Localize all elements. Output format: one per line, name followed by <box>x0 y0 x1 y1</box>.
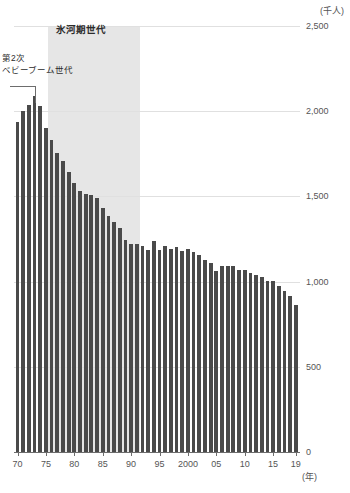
bar <box>260 277 264 453</box>
x-axis-tick-label-95: 95 <box>155 459 165 469</box>
bar <box>67 172 71 452</box>
bar <box>89 195 93 452</box>
x-axis-tick-mark-95 <box>160 452 161 456</box>
y-axis-tick-label-0: 0 <box>306 447 311 457</box>
annotation-leader-horizontal <box>10 86 35 87</box>
bar-series <box>14 26 300 452</box>
y-axis-unit-label: (千人) <box>320 4 344 17</box>
y-axis-tick-label-2500: 2,500 <box>306 21 329 31</box>
bar <box>44 128 48 452</box>
plot-area: 707580859095200005101519 <box>14 26 300 452</box>
bar <box>141 246 145 452</box>
x-axis-tick-label-15: 15 <box>268 459 278 469</box>
x-axis-tick-mark-19 <box>296 452 297 456</box>
x-axis-tick-mark-70 <box>18 452 19 456</box>
annotation-leader-vertical <box>35 86 36 103</box>
bar <box>84 194 88 452</box>
bar <box>283 291 287 452</box>
bar <box>55 153 59 452</box>
bar <box>254 275 258 452</box>
bar <box>78 191 82 452</box>
bar <box>271 281 275 452</box>
bar <box>112 222 116 452</box>
bar <box>186 249 190 452</box>
bar <box>50 140 54 452</box>
y-axis-tick-label-2000: 2,000 <box>306 106 329 116</box>
bar <box>288 296 292 452</box>
x-axis-tick-label-05: 05 <box>211 459 221 469</box>
x-axis-tick-label-75: 75 <box>41 459 51 469</box>
annotation-boom-line2: ベビーブーム世代 <box>2 64 73 76</box>
bar <box>266 281 270 452</box>
bar <box>231 266 235 452</box>
bar <box>226 266 230 452</box>
bar <box>27 105 31 452</box>
bar <box>243 270 247 452</box>
bar <box>107 216 111 452</box>
bar-chart: (千人) 707580859095200005101519 05001,0001… <box>0 0 350 493</box>
bar <box>277 286 281 452</box>
bar <box>249 273 253 452</box>
bar <box>129 244 133 452</box>
bar <box>118 228 122 452</box>
bar <box>214 271 218 452</box>
x-axis-unit-label: (年) <box>302 470 317 483</box>
bar <box>33 96 37 452</box>
bar <box>197 255 201 452</box>
x-axis-tick-label-80: 80 <box>69 459 79 469</box>
annotation-second-baby-boom-generation: 第2次 ベビーブーム世代 <box>2 52 73 76</box>
bar <box>21 111 25 452</box>
x-axis-tick-mark-85 <box>103 452 104 456</box>
bar <box>169 249 173 452</box>
bar <box>61 161 65 452</box>
bar <box>124 240 128 452</box>
x-axis-tick-label-70: 70 <box>13 459 23 469</box>
bar <box>135 244 139 452</box>
bar <box>38 106 42 452</box>
x-axis-tick-label-2000: 2000 <box>178 459 198 469</box>
x-axis-tick-mark-75 <box>46 452 47 456</box>
bar <box>158 250 162 452</box>
bar <box>163 246 167 452</box>
bar <box>203 260 207 452</box>
x-axis-tick-mark-80 <box>74 452 75 456</box>
x-axis-tick-mark-2000 <box>188 452 189 456</box>
annotation-boom-line1: 第2次 <box>2 53 25 63</box>
x-axis-tick-label-19: 19 <box>291 459 301 469</box>
y-axis-tick-label-1000: 1,000 <box>306 277 329 287</box>
annotation-ice-age-generation: 氷河期世代 <box>56 22 106 36</box>
bar <box>152 241 156 452</box>
x-axis-tick-label-10: 10 <box>240 459 250 469</box>
bar <box>180 251 184 452</box>
bar <box>192 252 196 452</box>
bar <box>294 305 298 452</box>
y-axis-tick-label-1500: 1,500 <box>306 191 329 201</box>
x-axis-tick-mark-05 <box>216 452 217 456</box>
bar <box>220 266 224 452</box>
bar <box>237 270 241 452</box>
bar <box>95 198 99 452</box>
bar <box>146 250 150 452</box>
x-axis-tick-label-85: 85 <box>98 459 108 469</box>
x-axis-tick-mark-15 <box>273 452 274 456</box>
gridline-0 <box>14 452 300 453</box>
bar <box>209 263 213 452</box>
y-axis-tick-label-500: 500 <box>306 362 321 372</box>
x-axis-tick-mark-90 <box>131 452 132 456</box>
bar <box>101 208 105 452</box>
bar <box>72 183 76 452</box>
bar <box>175 247 179 452</box>
bar <box>16 122 20 452</box>
x-axis-tick-label-90: 90 <box>126 459 136 469</box>
x-axis-tick-mark-10 <box>245 452 246 456</box>
